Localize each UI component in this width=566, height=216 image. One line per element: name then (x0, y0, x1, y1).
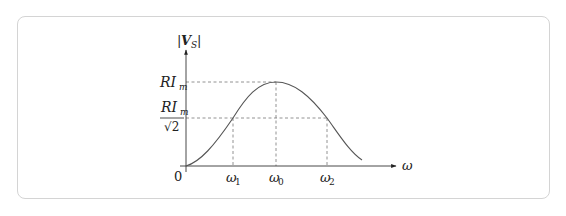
origin-label: 0 (174, 169, 182, 184)
x-tick-omega1-sub: 1 (235, 177, 241, 187)
y-label-right-bar: | (197, 33, 201, 48)
y-tick-half-denominator: √2 (164, 120, 179, 134)
x-tick-omega0: ω 0 (269, 170, 284, 187)
x-tick-omega0-sub: 0 (278, 177, 284, 187)
y-tick-half-power: RI m √2 (160, 99, 189, 134)
x-tick-omega1: ω 1 (226, 170, 241, 187)
y-tick-half-numerator-main: RI (160, 99, 178, 115)
x-tick-omega2: ω 2 (320, 170, 335, 187)
x-tick-omega2-sub: 2 (329, 177, 335, 187)
y-tick-peak-sub: m (179, 82, 188, 92)
x-axis-label: ω (402, 158, 413, 173)
y-axis-label: | V S | (177, 33, 201, 50)
resonance-curve (186, 82, 362, 166)
y-tick-half-numerator-sub: m (180, 107, 189, 117)
y-tick-peak-main: RI (159, 74, 177, 90)
y-tick-peak: RI m (159, 74, 188, 92)
resonance-curve-diagram: | V S | RI m RI m √2 0 ω 1 ω 0 ω 2 ω (0, 0, 566, 216)
